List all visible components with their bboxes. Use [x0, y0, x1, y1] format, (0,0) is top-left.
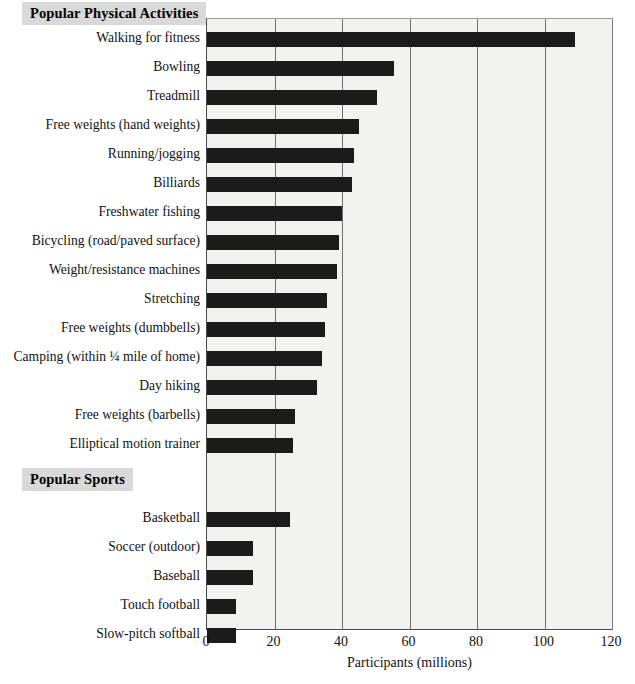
- gridline-100: [545, 19, 546, 629]
- bar: [207, 177, 352, 192]
- bar: [207, 599, 236, 614]
- gridline-60: [410, 19, 411, 629]
- category-label: Free weights (barbells): [4, 407, 204, 422]
- category-label: Slow-pitch softball: [4, 626, 204, 641]
- category-label: Stretching: [4, 291, 204, 306]
- bar: [207, 293, 327, 308]
- gridline-40: [342, 19, 343, 629]
- bar: [207, 32, 575, 47]
- category-label: Touch football: [4, 597, 204, 612]
- x-tick-100: 100: [533, 633, 554, 650]
- category-label: Walking for fitness: [4, 30, 204, 45]
- x-tick-0: 0: [203, 633, 210, 650]
- bar: [207, 438, 293, 453]
- category-label: Bowling: [4, 59, 204, 74]
- category-label: Basketball: [4, 510, 204, 525]
- plot-area: [206, 18, 613, 630]
- bar: [207, 351, 322, 366]
- category-label: Camping (within ¼ mile of home): [4, 349, 204, 364]
- bar: [207, 61, 394, 76]
- category-label: Free weights (hand weights): [4, 117, 204, 132]
- category-label: Bicycling (road/paved surface): [4, 233, 204, 248]
- bar: [207, 541, 253, 556]
- bar: [207, 409, 295, 424]
- x-axis-tick-labels: 020406080100120: [206, 633, 613, 653]
- category-label: Soccer (outdoor): [4, 539, 204, 554]
- x-tick-60: 60: [402, 633, 416, 650]
- bar: [207, 90, 377, 105]
- category-label: Elliptical motion trainer: [4, 436, 204, 451]
- bar-chart: Popular Physical Activities Popular Spor…: [0, 0, 635, 684]
- gridline-80: [477, 19, 478, 629]
- category-label: Baseball: [4, 568, 204, 583]
- category-label: Freshwater fishing: [4, 204, 204, 219]
- category-label: Treadmill: [4, 88, 204, 103]
- category-label: Free weights (dumbbells): [4, 320, 204, 335]
- x-tick-20: 20: [267, 633, 281, 650]
- bar: [207, 264, 337, 279]
- category-labels-column: Walking for fitnessBowlingTreadmillFree …: [0, 18, 204, 630]
- x-tick-40: 40: [334, 633, 348, 650]
- x-tick-80: 80: [469, 633, 483, 650]
- bar: [207, 119, 359, 134]
- category-label: Billiards: [4, 175, 204, 190]
- category-label: Weight/resistance machines: [4, 262, 204, 277]
- bar: [207, 148, 354, 163]
- category-label: Day hiking: [4, 378, 204, 393]
- bar: [207, 380, 317, 395]
- category-label: Running/jogging: [4, 146, 204, 161]
- x-axis-title: Participants (millions): [206, 654, 613, 671]
- bar: [207, 570, 253, 585]
- x-tick-120: 120: [601, 633, 622, 650]
- bar: [207, 322, 325, 337]
- bar: [207, 206, 342, 221]
- bar: [207, 235, 339, 250]
- bar: [207, 512, 290, 527]
